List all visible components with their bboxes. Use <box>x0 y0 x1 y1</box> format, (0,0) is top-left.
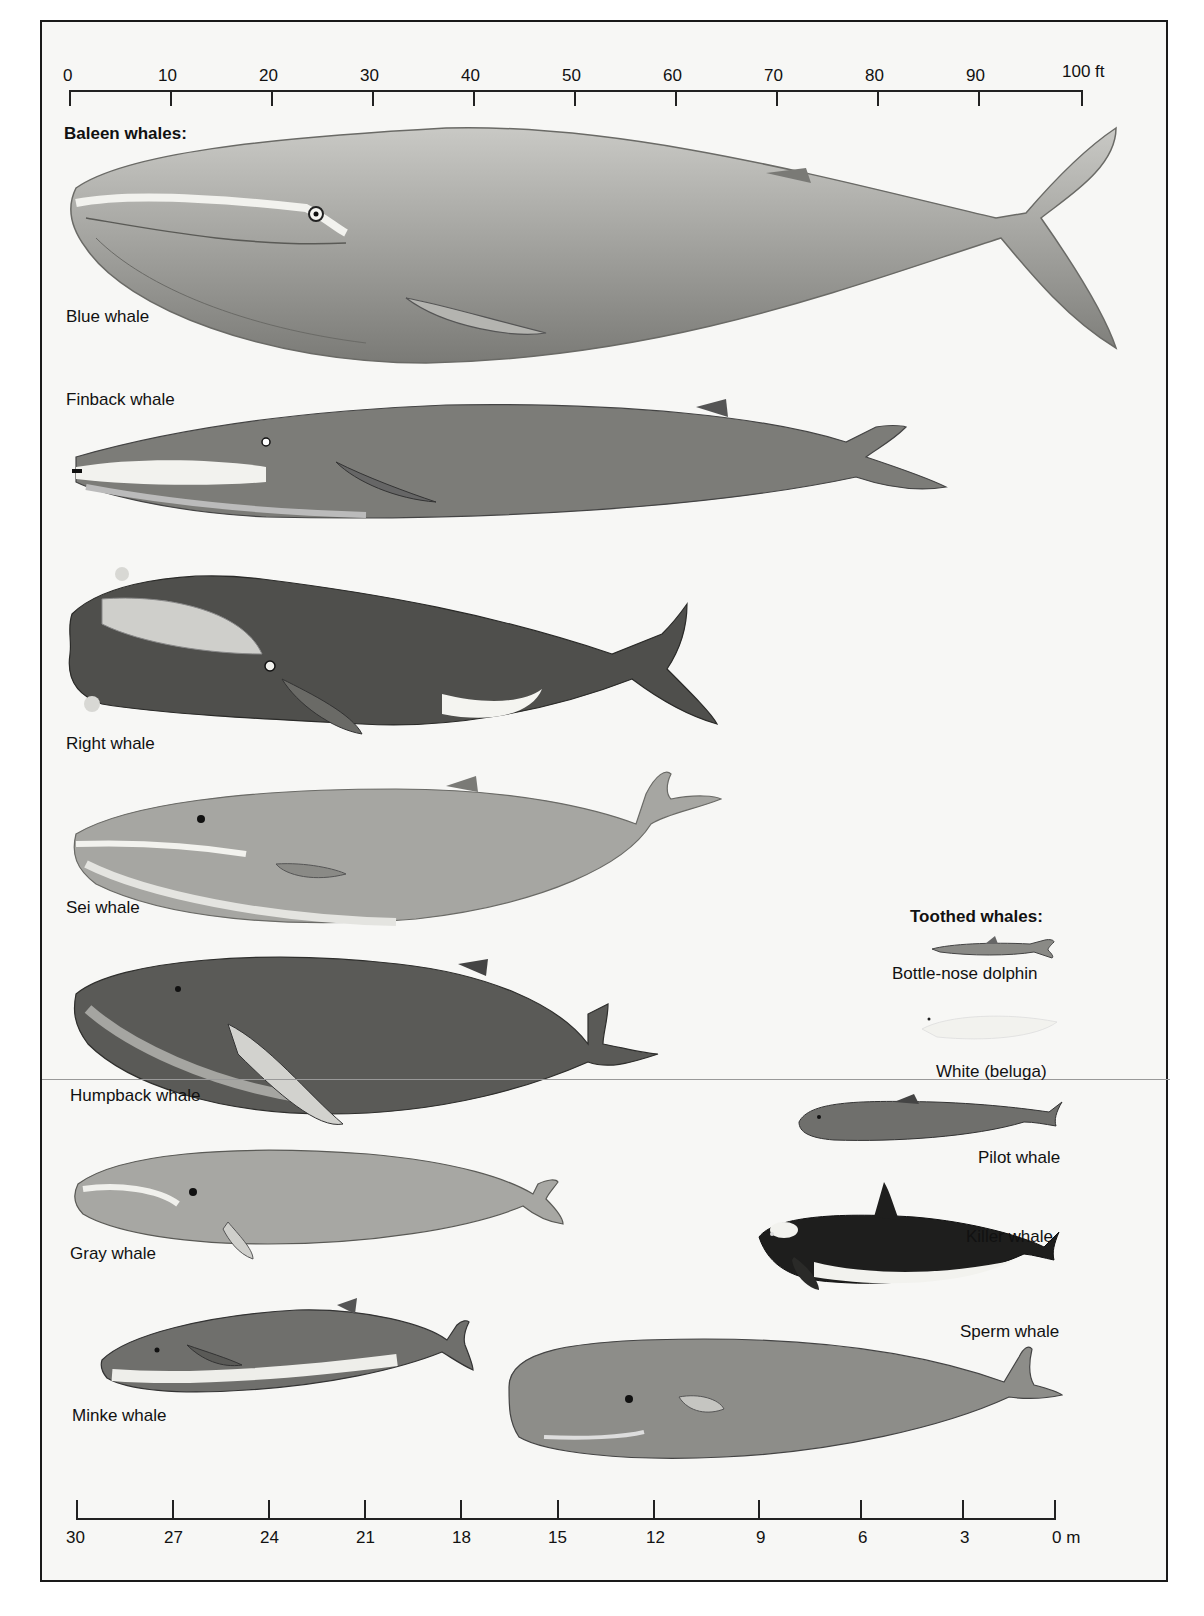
whale-label-finback: Finback whale <box>66 390 175 410</box>
tick <box>268 1500 270 1518</box>
tick-label: 60 <box>663 66 682 86</box>
bottom-scale-line <box>76 1518 1056 1520</box>
tick <box>69 90 71 106</box>
whale-label-right: Right whale <box>66 734 155 754</box>
tick <box>170 90 172 106</box>
tick-label: 50 <box>562 66 581 86</box>
tick-label: 27 <box>164 1528 183 1548</box>
tick <box>877 90 879 106</box>
tick <box>1054 1500 1056 1518</box>
sperm-whale-illustration <box>504 1327 1064 1467</box>
tick-label: 10 <box>158 66 177 86</box>
finback-whale-illustration <box>66 387 956 522</box>
tick-label: 100 ft <box>1062 62 1105 82</box>
tick <box>473 90 475 106</box>
whale-label-bottle-nose-dolphin: Bottle-nose dolphin <box>892 964 1038 984</box>
tick <box>1081 90 1083 106</box>
tick-label: 30 <box>360 66 379 86</box>
tick-label: 3 <box>960 1528 969 1548</box>
tick-label: 0 m <box>1052 1528 1080 1548</box>
tick <box>460 1500 462 1518</box>
tick <box>76 1500 78 1518</box>
tick-label: 24 <box>260 1528 279 1548</box>
tick-label: 15 <box>548 1528 567 1548</box>
tick-label: 9 <box>756 1528 765 1548</box>
whale-label-minke: Minke whale <box>72 1406 167 1426</box>
tick <box>574 90 576 106</box>
tick <box>372 90 374 106</box>
tick <box>364 1500 366 1518</box>
sei-whale-illustration <box>66 754 726 929</box>
whale-label-sperm: Sperm whale <box>960 1322 1059 1342</box>
gray-whale-illustration <box>68 1134 568 1254</box>
bottle-nose-dolphin-illustration <box>930 932 1060 962</box>
tick-label: 21 <box>356 1528 375 1548</box>
tick <box>653 1500 655 1518</box>
tick <box>172 1500 174 1518</box>
tick <box>978 90 980 106</box>
pilot-whale-illustration <box>794 1092 1064 1152</box>
whale-label-gray: Gray whale <box>70 1244 156 1264</box>
tick-label: 6 <box>858 1528 867 1548</box>
whale-label-blue: Blue whale <box>66 307 149 327</box>
tick-label: 80 <box>865 66 884 86</box>
tick <box>271 90 273 106</box>
tick-label: 0 <box>63 66 72 86</box>
whale-label-humpback: Humpback whale <box>70 1086 200 1106</box>
tick <box>962 1500 964 1518</box>
tick-label: 20 <box>259 66 278 86</box>
tick-label: 90 <box>966 66 985 86</box>
whale-label-sei: Sei whale <box>66 898 140 918</box>
tick <box>776 90 778 106</box>
right-whale-illustration <box>62 554 722 744</box>
tick <box>860 1500 862 1518</box>
toothed-whales-title: Toothed whales: <box>910 907 1043 927</box>
whale-label-pilot: Pilot whale <box>978 1148 1060 1168</box>
beluga-illustration <box>917 1007 1067 1047</box>
tick-label: 40 <box>461 66 480 86</box>
tick <box>675 90 677 106</box>
whale-label-beluga: White (beluga) <box>936 1062 1047 1082</box>
figure-frame: 0 10 20 30 40 50 60 70 80 90 100 ft Bale… <box>40 20 1168 1582</box>
tick <box>557 1500 559 1518</box>
blue-whale-illustration <box>66 118 1126 368</box>
whale-label-killer: Killer whale <box>966 1227 1053 1247</box>
minke-whale-illustration <box>97 1290 477 1400</box>
top-scale-line <box>69 90 1083 92</box>
tick-label: 12 <box>646 1528 665 1548</box>
tick-label: 18 <box>452 1528 471 1548</box>
tick-label: 70 <box>764 66 783 86</box>
tick <box>758 1500 760 1518</box>
tick-label: 30 <box>66 1528 85 1548</box>
